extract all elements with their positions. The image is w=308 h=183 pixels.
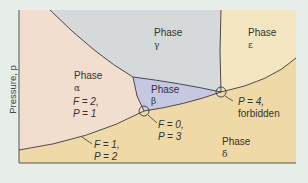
- quadruple-point-note: forbidden: [238, 108, 280, 119]
- triple-point-F: F = 0,: [158, 119, 184, 130]
- phase-delta-symbol: δ: [222, 149, 227, 160]
- phase-alpha-symbol: α: [74, 83, 80, 94]
- triple-point-P: P = 3: [158, 131, 181, 142]
- phase-alpha-name: Phase: [74, 70, 102, 81]
- boundary-P: P = 2: [94, 151, 117, 162]
- boundary-F: F = 1,: [94, 139, 120, 150]
- phase-epsilon-name: Phase: [248, 27, 276, 38]
- phase-alpha-F: F = 2,: [73, 96, 99, 107]
- phase-beta-name: Phase: [151, 84, 179, 95]
- y-axis-label: Pressure, p: [7, 60, 18, 120]
- phase-gamma-symbol: γ: [154, 40, 159, 51]
- phase-delta-name: Phase: [222, 136, 250, 147]
- quadruple-point-P: P = 4,: [238, 96, 264, 107]
- phase-beta-symbol: β: [151, 96, 156, 107]
- phase-gamma-name: Phase: [154, 27, 182, 38]
- phase-alpha-P: P = 1: [73, 108, 96, 119]
- phase-epsilon-symbol: ε: [248, 40, 253, 51]
